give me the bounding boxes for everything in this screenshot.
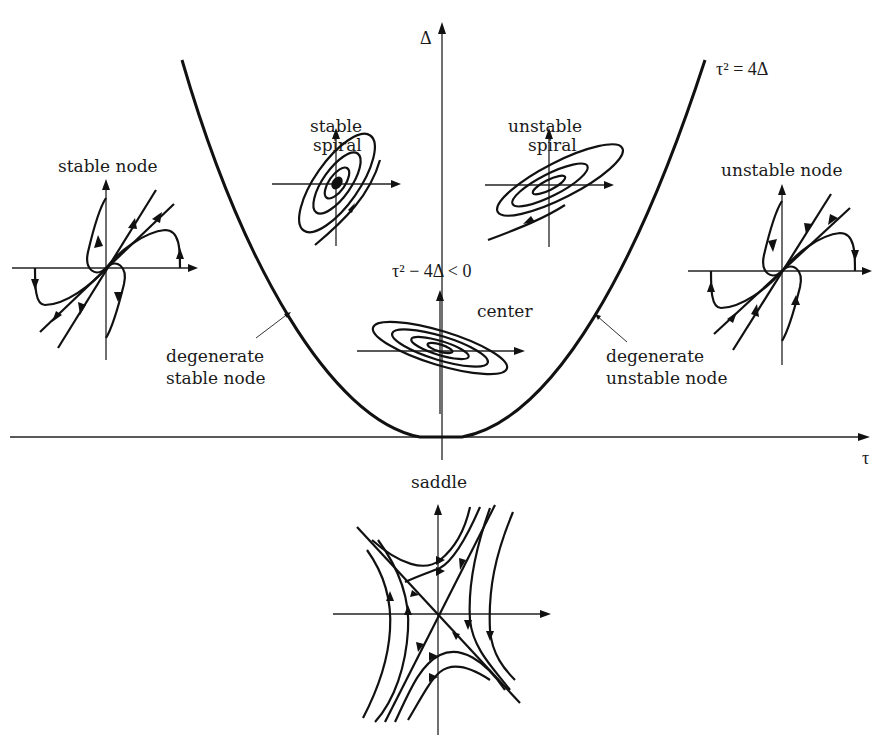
stable-node-label: stable node (58, 156, 158, 176)
unstable-node-label: unstable node (721, 160, 843, 180)
tau-axis-arrow-icon (858, 433, 870, 441)
unstable-spiral-portrait: unstable spiral (485, 116, 631, 247)
parabola-label: τ² = 4Δ (716, 59, 768, 79)
degenerate-unstable-node-annotation: degenerate unstable node (595, 314, 728, 388)
tau-axis-label: τ (862, 448, 869, 468)
degenerate-unstable-label-line1: degenerate (606, 346, 704, 366)
center-label: center (477, 301, 533, 321)
delta-axis-label: Δ (420, 28, 432, 48)
unstable-node-portrait: unstable node (688, 160, 872, 365)
degenerate-stable-label-line1: degenerate (166, 346, 264, 366)
stable-node-portrait: stable node (12, 156, 198, 360)
saddle-portrait: saddle (333, 472, 551, 735)
saddle-label: saddle (411, 472, 467, 492)
degenerate-stable-label-line2: stable node (166, 368, 266, 388)
region-label: τ² − 4Δ < 0 (392, 261, 472, 281)
unstable-spiral-label-line1: unstable (508, 116, 582, 136)
center-portrait: center (357, 290, 533, 414)
stable-spiral-portrait: stable spiral (272, 116, 401, 246)
degenerate-stable-node-annotation: degenerate stable node (166, 312, 291, 388)
delta-axis-arrow-icon (438, 22, 446, 34)
degenerate-unstable-label-line2: unstable node (606, 368, 728, 388)
trace-determinant-diagram: Δ τ τ² = 4Δ τ² − 4Δ < 0 stable node stab… (0, 0, 895, 751)
